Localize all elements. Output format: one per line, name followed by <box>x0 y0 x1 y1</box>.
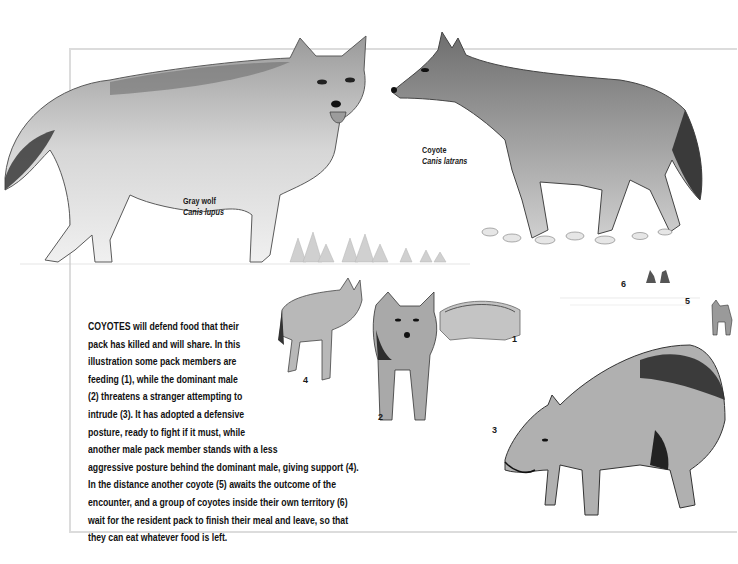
gray-wolf-scientific-name: Canis lupus <box>183 207 224 218</box>
coyote-label: Coyote Canis latrans <box>422 145 467 167</box>
caption-line-7: posture, ready to fight if it must, whil… <box>88 424 375 442</box>
caption-line-3: illustration some pack members are <box>88 353 375 371</box>
coyote-illustration <box>391 32 702 244</box>
scene-number-5: 5 <box>685 296 690 306</box>
caption-line-1: COYOTES will defend food that their <box>88 318 375 336</box>
scene-number-6: 6 <box>621 279 626 289</box>
caption-line-8: another male pack member stands with a l… <box>88 441 375 459</box>
coyote-common-name: Coyote <box>422 145 446 155</box>
caption-lead-word: COYOTES <box>88 321 131 332</box>
feeding-coyotes-illustration <box>440 301 520 340</box>
coyote-scientific-name: Canis latrans <box>422 156 467 167</box>
figure-caption: COYOTES will defend food that their pack… <box>88 318 418 547</box>
caption-line-11: encounter, and a group of coyotes inside… <box>88 494 375 512</box>
intruding-coyote-illustration <box>505 345 725 515</box>
caption-line-2: pack has killed and will share. In this <box>88 336 375 354</box>
scene-number-3: 3 <box>492 425 497 435</box>
waiting-coyote-group-illustration <box>560 270 700 305</box>
scene-number-1: 1 <box>512 334 517 344</box>
gray-wolf-label: Gray wolf Canis lupus <box>183 196 224 218</box>
distant-coyote-illustration <box>712 300 732 335</box>
caption-line-9: aggressive posture behind the dominant m… <box>88 459 375 477</box>
gray-wolf-illustration <box>5 36 366 262</box>
caption-line-12: wait for the resident pack to finish the… <box>88 512 375 530</box>
caption-line-10: In the distance another coyote (5) await… <box>88 476 375 494</box>
gray-wolf-common-name: Gray wolf <box>183 196 216 206</box>
caption-line-5: (2) threatens a stranger attempting to <box>88 388 375 406</box>
caption-line-13: they can eat whatever food is left. <box>88 529 375 547</box>
caption-line-6: intrude (3). It has adopted a defensive <box>88 406 375 424</box>
caption-line-4: feeding (1), while the dominant male <box>88 371 375 389</box>
